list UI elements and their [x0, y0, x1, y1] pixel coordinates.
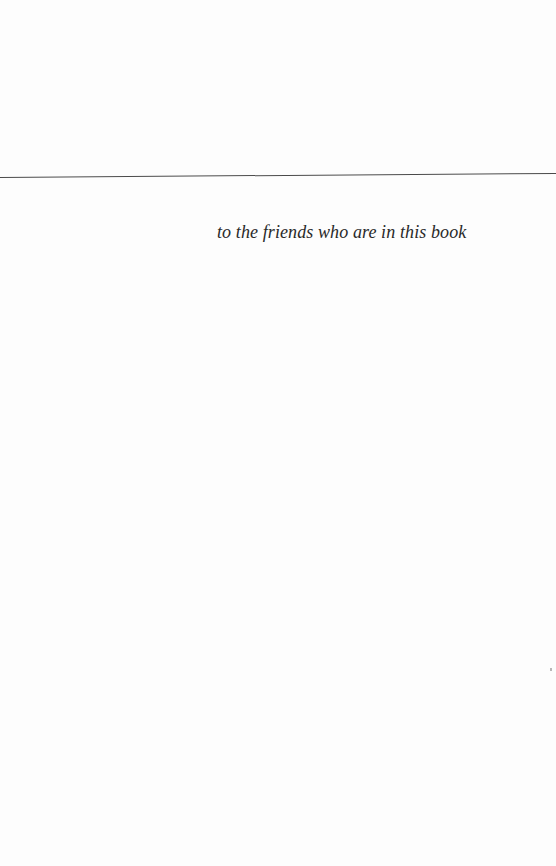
page-speck: [550, 668, 552, 671]
dedication-text: to the friends who are in this book: [217, 222, 466, 243]
horizontal-rule: [0, 173, 556, 178]
